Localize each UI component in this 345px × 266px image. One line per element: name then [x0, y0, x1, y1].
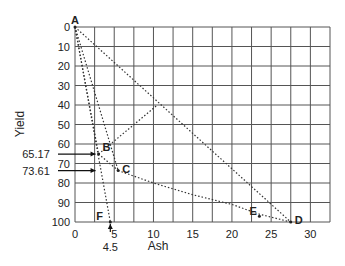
point-marker [109, 221, 112, 224]
y-tick-label: 70 [58, 158, 70, 170]
point-marker [97, 153, 100, 156]
y-tick-label: 80 [58, 177, 70, 189]
point-label-E: E [249, 205, 256, 217]
y-tick-label: 0 [64, 21, 70, 33]
y-tick-label: 60 [58, 138, 70, 150]
y-tick-label: 90 [58, 197, 70, 209]
y-axis-label: Yield [13, 111, 27, 137]
arrowhead-icon [108, 224, 113, 229]
point-label-A: A [71, 14, 79, 26]
series-line [118, 171, 291, 222]
yield-ash-chart: 0510152025300102030405060708090100 ABCDE… [0, 0, 345, 266]
x-tick-label: 25 [265, 228, 277, 240]
axis-ticks: 0510152025300102030405060708090100 [52, 21, 317, 240]
annotation-label: 73.61 [22, 165, 50, 177]
y-tick-label: 100 [52, 216, 70, 228]
point-marker [258, 215, 261, 218]
point-label-B: B [103, 141, 111, 153]
annotation-label: 4.5 [103, 241, 118, 253]
y-tick-label: 30 [58, 80, 70, 92]
y-tick-label: 20 [58, 60, 70, 72]
x-tick-label: 15 [187, 228, 199, 240]
point-label-C: C [122, 163, 130, 175]
x-tick-label: 20 [226, 228, 238, 240]
point-labels: ABCDEF [71, 14, 303, 226]
grid [75, 27, 330, 222]
y-tick-label: 50 [58, 119, 70, 131]
x-tick-label: 30 [304, 228, 316, 240]
x-axis-label: Ash [148, 239, 169, 253]
x-tick-label: 0 [72, 228, 78, 240]
point-marker [289, 221, 292, 224]
point-label-D: D [295, 214, 303, 226]
point-label-F: F [96, 210, 103, 222]
annotation-label: 65.17 [22, 148, 50, 160]
y-tick-label: 10 [58, 41, 70, 53]
x-tick-label: 5 [111, 228, 117, 240]
y-tick-label: 40 [58, 99, 70, 111]
point-marker [117, 169, 120, 172]
